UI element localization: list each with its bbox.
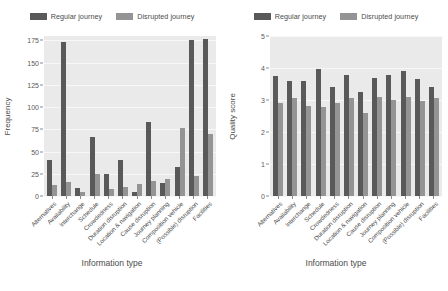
legend-label-regular: Regular journey	[51, 12, 103, 21]
legend-swatch-regular	[30, 13, 47, 20]
bar-group	[144, 36, 158, 196]
bar-group	[271, 36, 285, 196]
y-tick-label: 100	[27, 104, 39, 111]
y-tick-mark	[266, 100, 269, 101]
y-tick-label: 0	[261, 193, 265, 200]
bar-group	[399, 36, 413, 196]
y-tick-mark	[40, 173, 43, 174]
legend-item-disrupted: Disrupted journey	[116, 12, 194, 21]
bar-disrupted	[292, 98, 297, 196]
bar-disrupted	[420, 101, 425, 196]
x-tick-mark	[391, 196, 392, 199]
bar-regular	[61, 42, 66, 196]
y-axis-left: 0255075100125150175	[0, 36, 44, 196]
y-tick-mark	[40, 151, 43, 152]
bar-disrupted	[434, 98, 439, 196]
bar-disrupted	[52, 185, 57, 196]
bar-disrupted	[278, 103, 283, 196]
y-tick-label: 150	[27, 59, 39, 66]
x-tick-mark	[363, 196, 364, 199]
y-tick-mark	[40, 107, 43, 108]
x-tick-mark	[278, 196, 279, 199]
y-tick-label: 5	[261, 33, 265, 40]
bar-group	[73, 36, 87, 196]
legend-item-regular-right: Regular journey	[254, 12, 327, 21]
y-tick-mark	[266, 68, 269, 69]
y-tick-label: 50	[31, 148, 39, 155]
bar-group	[130, 36, 144, 196]
x-tick-mark	[122, 196, 123, 199]
bar-disrupted	[306, 106, 311, 196]
bar-disrupted	[165, 179, 170, 196]
y-tick-mark	[266, 196, 269, 197]
bar-disrupted	[180, 128, 185, 196]
x-tick-mark	[108, 196, 109, 199]
plot-area-left	[44, 36, 216, 196]
bar-disrupted	[406, 97, 411, 196]
bar-disrupted	[321, 107, 326, 196]
x-tick-mark	[334, 196, 335, 199]
bar-disrupted	[151, 181, 156, 196]
bar-disrupted	[194, 176, 199, 196]
legend-label-disrupted: Disrupted journey	[137, 12, 194, 21]
bar-disrupted	[66, 182, 71, 196]
bar-group	[413, 36, 427, 196]
bar-group	[384, 36, 398, 196]
legend-swatch-disrupted	[116, 13, 133, 20]
legend-left: Regular journey Disrupted journey	[0, 12, 224, 21]
legend-right: Regular journey Disrupted journey	[224, 12, 448, 21]
legend-swatch-disrupted-right	[340, 13, 357, 20]
y-tick-label: 2	[261, 129, 265, 136]
y-tick-mark	[266, 132, 269, 133]
x-tick-mark	[165, 196, 166, 199]
x-axis-title-left: Information type	[0, 258, 224, 268]
x-tick-mark	[193, 196, 194, 199]
bar-group	[59, 36, 73, 196]
y-tick-label: 175	[27, 37, 39, 44]
x-tick-mark	[179, 196, 180, 199]
bar-group	[102, 36, 116, 196]
bar-disrupted	[349, 98, 354, 196]
y-tick-label: 4	[261, 65, 265, 72]
bar-group	[370, 36, 384, 196]
bar-group	[158, 36, 172, 196]
x-tick-mark	[66, 196, 67, 199]
bar-disrupted	[95, 174, 100, 196]
bar-disrupted	[208, 134, 213, 196]
legend-label-regular-right: Regular journey	[275, 12, 327, 21]
bar-group	[328, 36, 342, 196]
x-axis-labels-left: AlternativesAvailabilityInterchangeSched…	[44, 200, 216, 252]
figure-two-panel-bar-charts: Regular journey Disrupted journey Freque…	[0, 0, 448, 291]
x-tick-mark	[292, 196, 293, 199]
plot-area-right	[270, 36, 442, 196]
legend-item-regular: Regular journey	[30, 12, 103, 21]
legend-item-disrupted-right: Disrupted journey	[340, 12, 418, 21]
bar-disrupted	[391, 100, 396, 196]
x-tick-mark	[52, 196, 53, 199]
bar-group	[88, 36, 102, 196]
y-tick-mark	[266, 36, 269, 37]
x-axis-title-right: Information type	[224, 258, 448, 268]
bar-disrupted	[137, 184, 142, 196]
x-axis-labels-right: AlternativesAvailabilityInterchangeSched…	[270, 200, 442, 252]
bar-group	[299, 36, 313, 196]
y-tick-mark	[40, 40, 43, 41]
y-tick-label: 3	[261, 97, 265, 104]
bar-group	[342, 36, 356, 196]
x-label-cell: Facilities	[427, 200, 441, 252]
y-tick-label: 0	[35, 193, 39, 200]
x-tick-mark	[137, 196, 138, 199]
bar-group	[314, 36, 328, 196]
panel-quality-score: Regular journey Disrupted journey Qualit…	[224, 0, 448, 291]
y-tick-mark	[40, 129, 43, 130]
bar-groups-left	[44, 36, 216, 196]
bar-disrupted	[377, 97, 382, 196]
bar-group	[356, 36, 370, 196]
bar-group	[187, 36, 201, 196]
bar-disrupted	[335, 103, 340, 196]
bar-group	[201, 36, 215, 196]
bar-disrupted	[109, 189, 114, 196]
panel-frequency: Regular journey Disrupted journey Freque…	[0, 0, 224, 291]
legend-label-disrupted-right: Disrupted journey	[361, 12, 418, 21]
y-tick-label: 1	[261, 161, 265, 168]
